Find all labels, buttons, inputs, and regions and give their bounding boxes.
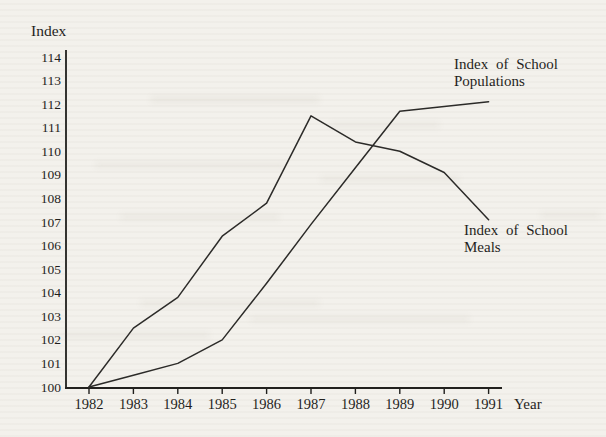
y-tick-label: 100 [41,380,62,395]
y-tick-label: 110 [41,144,61,159]
y-tick-label: 114 [41,50,61,65]
y-tick-label: 112 [41,97,61,112]
x-tick-label: 1982 [75,396,104,412]
x-tick-label: 1990 [430,396,459,412]
series-line-index-of-school-meals [89,116,489,387]
y-tick-label: 107 [41,215,62,230]
series-label-populations-line2: Populations [454,73,558,90]
x-tick-label: 1983 [119,396,148,412]
scanned-chart-page: 1982198319841985198619871988198919901991… [0,0,606,437]
x-tick-label: 1987 [297,396,326,412]
series-label-meals: Index of School Meals [464,222,568,255]
x-axis-title: Year [514,396,542,413]
y-tick-label: 108 [41,191,62,206]
series-label-populations: Index of School Populations [454,56,558,89]
y-axis-title: Index [31,22,66,40]
series-line-index-of-school-populations [89,102,489,387]
y-tick-label: 106 [41,238,62,253]
y-tick-label: 103 [41,309,62,324]
y-tick-label: 104 [41,285,62,300]
series-label-meals-line1: Index of School [464,222,568,239]
y-tick-label: 101 [41,356,61,371]
x-tick-label: 1985 [208,396,237,412]
series-label-meals-line2: Meals [464,239,568,256]
y-tick-label: 113 [41,73,61,88]
y-tick-label: 109 [41,167,62,182]
x-tick-label: 1986 [252,396,281,412]
x-tick-label: 1989 [385,396,414,412]
y-tick-label: 102 [41,332,61,347]
series-label-populations-line1: Index of School [454,56,558,73]
x-tick-label: 1988 [341,396,370,412]
y-tick-label: 111 [42,120,61,135]
x-tick-label: 1984 [163,396,193,412]
x-tick-label: 1991 [474,396,503,412]
y-tick-label: 105 [41,262,62,277]
